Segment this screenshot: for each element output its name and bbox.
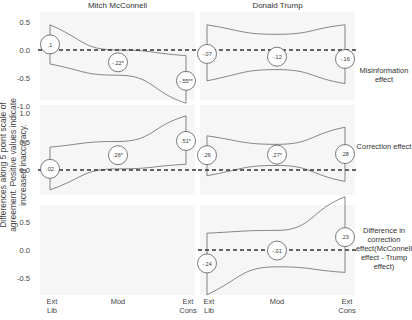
estimate-label: .1 xyxy=(48,42,53,48)
column-title: Donald Trump xyxy=(252,1,303,10)
panel-background xyxy=(40,205,195,295)
y-tick-label: 0.0 xyxy=(20,246,30,255)
y-tick-label: 0.0 xyxy=(20,46,30,55)
x-tick-label: Mod xyxy=(111,297,126,306)
row-label: effect) xyxy=(374,262,395,271)
y-tick-label: 1.0 xyxy=(20,109,30,118)
row-label: effect(McConnell xyxy=(356,244,412,253)
column-title: Mitch McConnell xyxy=(88,1,147,10)
x-tick-label: Mod xyxy=(270,297,285,306)
estimate-label: -.07 xyxy=(202,51,211,57)
x-tick-label: Ext xyxy=(342,297,354,306)
estimate-label: -.01 xyxy=(272,248,281,254)
row-label: Difference in xyxy=(363,226,405,235)
row-label: effect - Trump xyxy=(361,253,407,262)
x-tick-label: Cons xyxy=(179,306,197,315)
y-tick-label: 0.0 xyxy=(20,166,30,175)
x-tick-label: Ext xyxy=(204,297,216,306)
x-tick-label: Cons xyxy=(338,306,356,315)
estimate-label: -.55** xyxy=(179,78,194,84)
estimate-label: .51* xyxy=(181,138,192,144)
x-tick-label: Ext xyxy=(183,297,195,306)
estimate-label: -.24 xyxy=(202,261,211,267)
estimate-label: .27* xyxy=(272,152,283,158)
y-tick-label: -0.5 xyxy=(17,74,30,83)
x-tick-label: Ext xyxy=(47,297,59,306)
y-tick-label: -0.5 xyxy=(17,274,30,283)
y-tick-label: 0.5 xyxy=(20,218,30,227)
estimate-label: .23 xyxy=(341,234,349,240)
faceted-chart: Mitch McConnellDonald Trump0.50.0-0.5-1.… xyxy=(0,0,412,320)
row-label: correction xyxy=(368,235,401,244)
row-label: effect xyxy=(375,75,394,84)
estimate-label: -.22* xyxy=(112,60,124,66)
estimate-label: .26* xyxy=(113,152,124,158)
estimate-label: -.12 xyxy=(272,54,281,60)
x-tick-label: Lib xyxy=(47,306,57,315)
row-label: Correction effect xyxy=(357,142,412,151)
estimate-label: -.16 xyxy=(340,56,349,62)
estimate-label: .02 xyxy=(46,166,54,172)
x-tick-label: Lib xyxy=(204,306,214,315)
estimate-label: .28 xyxy=(341,151,349,157)
y-tick-label: 0.5 xyxy=(20,18,30,27)
y-tick-label: 0.5 xyxy=(20,138,30,147)
estimate-label: .26 xyxy=(203,152,211,158)
row-label: Misinformation xyxy=(360,66,409,75)
